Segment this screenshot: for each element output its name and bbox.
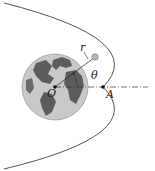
label-theta: θ <box>91 69 98 82</box>
orbit-diagram: O A r θ <box>0 0 155 171</box>
satellite <box>92 54 98 60</box>
label-r: r <box>80 41 86 54</box>
label-a: A <box>105 88 114 101</box>
point-a <box>101 85 105 89</box>
label-origin: O <box>47 87 56 100</box>
